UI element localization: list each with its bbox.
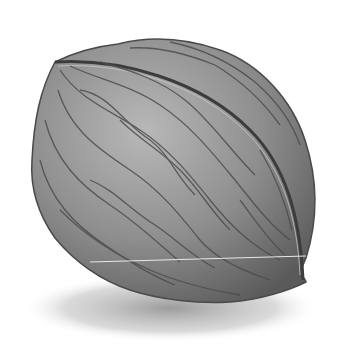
walnut-illustration — [0, 0, 349, 361]
walnut-graphic — [0, 0, 349, 361]
walnut-shell — [32, 39, 315, 302]
